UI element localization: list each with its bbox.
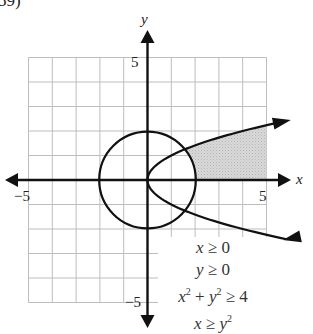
shaded-solution-region — [185, 125, 267, 180]
parabola-lower-arrow-icon — [283, 231, 302, 243]
inequality-parabola: x ≥ y2 — [158, 308, 268, 334]
y-axis-bottom-arrow-icon — [141, 315, 155, 328]
parabola-upper-arrow-icon — [272, 118, 291, 130]
y-axis-top-arrow-icon — [141, 30, 155, 43]
y-axis-label: y — [139, 11, 148, 27]
inequality-system: x ≥ 0 y ≥ 0 x2 + y2 ≥ 4 x ≥ y2 — [158, 237, 268, 334]
inequality-y-nonneg: y ≥ 0 — [158, 259, 268, 281]
x-axis-right-arrow-icon — [278, 173, 291, 187]
x-max-tick-label: 5 — [259, 188, 267, 204]
inequality-x-nonneg: x ≥ 0 — [158, 237, 268, 259]
inequality-outside-circle: x2 + y2 ≥ 4 — [158, 281, 268, 308]
y-min-tick-label: −5 — [125, 294, 141, 310]
x-min-tick-label: −5 — [14, 188, 30, 204]
y-max-tick-label: 5 — [131, 54, 139, 70]
x-axis-label: x — [295, 171, 303, 187]
x-axis-left-arrow-icon — [5, 173, 18, 187]
